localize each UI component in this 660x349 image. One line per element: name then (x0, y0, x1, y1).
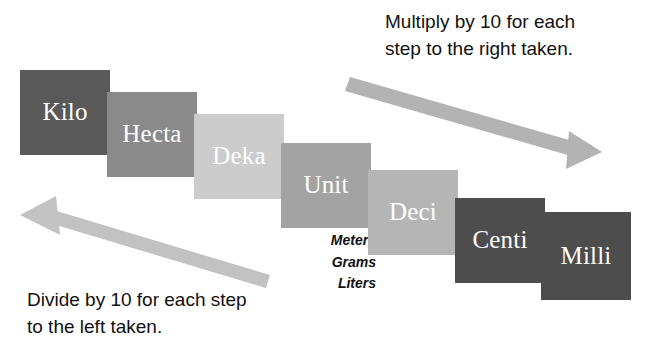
multiply-note: Multiply by 10 for each step to the righ… (385, 9, 575, 63)
step-deci[interactable]: Deci (368, 170, 458, 255)
step-centi[interactable]: Centi (455, 198, 545, 283)
step-deci-label: Deci (389, 199, 437, 224)
base-unit-meters: Meters (296, 230, 376, 252)
step-hecta-label: Hecta (122, 121, 181, 146)
step-kilo[interactable]: Kilo (20, 70, 110, 155)
step-deka-label: Deka (212, 143, 266, 168)
divide-note-line1: Divide by 10 for each step (27, 287, 247, 314)
step-unit-label: Unit (303, 172, 348, 197)
step-milli[interactable]: Milli (541, 212, 631, 300)
divide-note-line2: to the left taken. (27, 314, 247, 341)
multiply-note-line2: step to the right taken. (385, 36, 575, 63)
step-deka[interactable]: Deka (194, 114, 284, 199)
metric-staircase-diagram: Kilo Hecta Deka Unit Deci Centi Milli Me… (0, 0, 660, 349)
step-kilo-label: Kilo (42, 99, 87, 124)
step-hecta[interactable]: Hecta (107, 92, 197, 177)
base-unit-liters: Liters (296, 273, 376, 295)
divide-note: Divide by 10 for each step to the left t… (27, 287, 247, 341)
base-unit-grams: Grams (296, 252, 376, 274)
base-units-list: Meters Grams Liters (296, 230, 376, 295)
divide-arrow-left (20, 196, 270, 288)
step-milli-label: Milli (560, 243, 611, 268)
multiply-arrow-right (345, 77, 602, 169)
multiply-note-line1: Multiply by 10 for each (385, 9, 575, 36)
step-unit[interactable]: Unit (281, 143, 371, 228)
step-centi-label: Centi (472, 227, 527, 252)
